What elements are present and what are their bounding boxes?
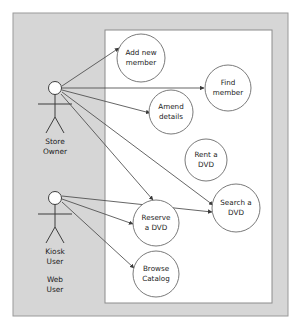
actor-label-store-owner: StoreOwner: [43, 137, 68, 156]
use-case-label-reserve-a-dvd: Reservea DVD: [142, 213, 171, 232]
use-case-label-amend-details: Amenddetails: [158, 102, 183, 121]
use-case-label-add-new-member: Add newmember: [125, 48, 156, 67]
use-case-reserve-a-dvd: Reservea DVD: [133, 200, 179, 246]
use-case-find-member: Findmember: [205, 65, 251, 111]
actor-label-web-user: WebUser: [47, 275, 65, 294]
use-case-amend-details: Amenddetails: [149, 90, 193, 134]
use-case-diagram: StoreOwnerKioskUserWebUser Add newmember…: [0, 0, 305, 331]
use-case-add-new-member: Add newmember: [117, 34, 165, 82]
use-case-browse-catalog: BrowseCatalog: [133, 251, 179, 297]
actor-label-kiosk-web-user: KioskUser: [45, 247, 65, 266]
actor-head-icon: [49, 192, 62, 205]
actor-head-icon: [49, 82, 62, 95]
use-case-label-browse-catalog: BrowseCatalog: [142, 264, 170, 283]
use-case-rent-a-dvd: Rent aDVD: [185, 139, 227, 181]
uml-diagram-canvas: StoreOwnerKioskUserWebUser Add newmember…: [0, 0, 305, 331]
use-case-search-a-dvd: Search aDVD: [212, 184, 260, 232]
